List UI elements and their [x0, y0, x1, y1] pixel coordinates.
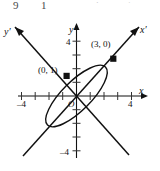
x-axis-label: x: [138, 85, 144, 96]
plot-canvas: (3, 0) (0, 1) x y x′ y′ –4 4 4 –4 O: [0, 0, 160, 171]
x-tick-label-neg4: –4: [16, 99, 27, 109]
point-label-3-0: (3, 0): [91, 39, 111, 49]
point-label-0-1: (0, 1): [38, 65, 58, 75]
y-prime-axis-label: y′: [3, 26, 11, 37]
conic-rotation-figure: 9 1 · ·: [0, 0, 160, 171]
y-axis-label: y: [68, 24, 74, 35]
y-tick-label-4: 4: [66, 37, 71, 47]
x-tick-label-4: 4: [128, 99, 133, 109]
point-marker-0-1: [64, 73, 70, 79]
point-marker-3-0: [110, 56, 116, 62]
origin-label: O: [68, 99, 75, 109]
axis-x-prime: [23, 27, 139, 156]
y-tick-label-neg4: –4: [59, 147, 70, 157]
axis-y: [74, 23, 80, 158]
x-prime-axis-label: x′: [139, 24, 147, 35]
axis-y-prime: [15, 27, 129, 155]
